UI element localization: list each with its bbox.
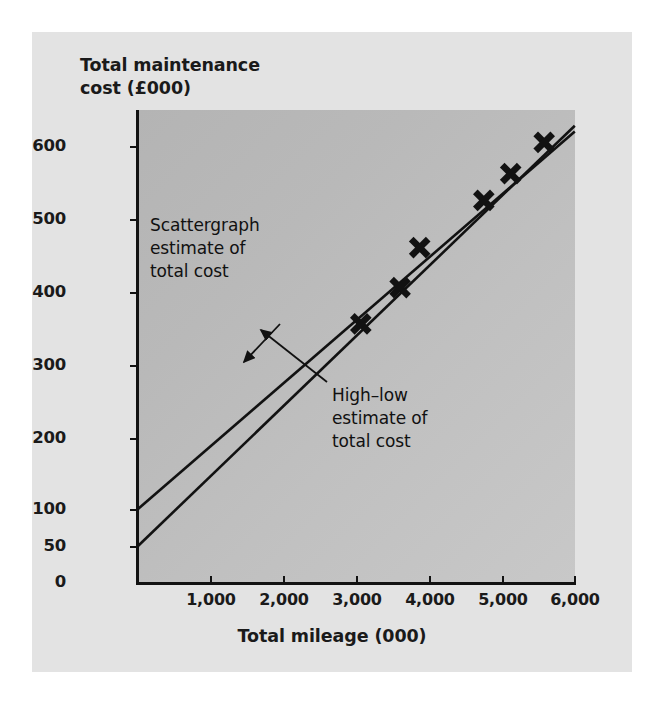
data-point-marker (536, 134, 553, 151)
annotation-leader-lines (244, 324, 327, 382)
x-axis-title: Total mileage (000) (32, 626, 632, 646)
annotation-scattergraph: Scattergraph estimate of total cost (150, 214, 260, 282)
data-point-markers (352, 134, 552, 333)
data-point-marker (502, 165, 519, 182)
trend-lines (138, 126, 575, 546)
trend-line-high-low (138, 126, 575, 546)
annotation-high-low: High–low estimate of total cost (332, 384, 428, 452)
figure-canvas: Total maintenance cost (£000) 600 500 40… (32, 32, 632, 672)
data-point-marker (475, 192, 492, 209)
chart-overlay (32, 32, 632, 672)
data-point-marker (411, 239, 428, 256)
